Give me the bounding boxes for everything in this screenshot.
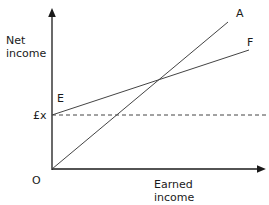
line-a-label: A — [236, 7, 244, 20]
y-axis-label: Net income — [6, 34, 46, 60]
x-axis-label: Earned income — [154, 178, 194, 204]
intercept-label: £x — [33, 109, 47, 122]
line-f — [52, 50, 249, 115]
origin-label: O — [32, 174, 41, 187]
line-a — [52, 22, 228, 169]
line-f-label: F — [247, 36, 253, 49]
x-axis-label-line2: income — [154, 191, 194, 204]
x-axis-label-line1: Earned — [154, 178, 194, 191]
point-e-label: E — [57, 92, 64, 105]
y-axis-label-line2: income — [6, 47, 46, 60]
y-axis-label-line1: Net — [6, 34, 46, 47]
